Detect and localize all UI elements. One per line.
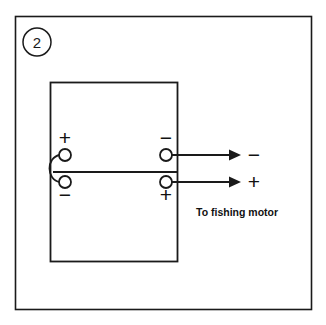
destination-label: To fishing motor (196, 206, 278, 218)
lead-label-negative: − (248, 143, 260, 166)
lead-label-positive: + (248, 170, 260, 193)
polarity-right-top: − (160, 126, 172, 149)
step-badge-number: 2 (33, 34, 41, 51)
polarity-left-top: + (59, 126, 71, 149)
terminal-right-top (160, 149, 172, 161)
polarity-right-bottom: + (160, 183, 172, 206)
terminal-left-top (59, 149, 71, 161)
figure-container: 2 + − − + − + To fishing motor (0, 0, 326, 325)
wiring-diagram: 2 + − − + − + To fishing motor (0, 0, 326, 325)
polarity-left-bottom: − (59, 183, 71, 206)
